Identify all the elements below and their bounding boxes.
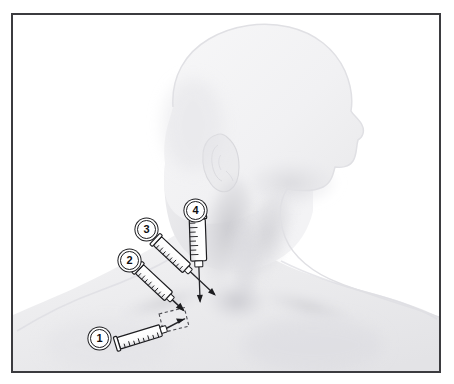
- syringe-1-hub: [160, 326, 168, 334]
- chest-shadow-right: [243, 317, 383, 371]
- syringe-4-hub: [195, 261, 203, 267]
- jaw-shadow: [251, 161, 339, 205]
- figure-frame: 1 2 3 4: [11, 13, 441, 373]
- marker-3[interactable]: 3: [137, 220, 156, 239]
- marker-2[interactable]: 2: [120, 251, 139, 270]
- marker-4[interactable]: 4: [186, 201, 205, 220]
- marker-1[interactable]: 1: [90, 329, 109, 348]
- body-silhouette: [13, 24, 439, 371]
- medical-illustration-canvas: [13, 15, 439, 371]
- figure-root: 1 2 3 4: [0, 0, 454, 384]
- suprasternal-notch: [207, 281, 267, 321]
- occiput-shadow: [163, 79, 223, 171]
